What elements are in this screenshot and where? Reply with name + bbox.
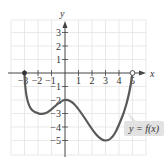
y-tick-label: 2 — [56, 41, 61, 52]
x-tick-label: −2 — [32, 75, 43, 86]
y-tick-label: 3 — [56, 27, 61, 38]
open-endpoint — [130, 71, 135, 76]
y-tick-label: −4 — [50, 122, 61, 133]
y-tick-labels: 3 2 1 −1 −2 −3 −4 −5 — [50, 27, 61, 146]
y-axis-arrow-icon — [63, 21, 68, 28]
x-tick-label: 4 — [117, 75, 122, 86]
axes — [8, 25, 142, 157]
x-axis-arrow-icon — [139, 71, 146, 76]
x-tick-label: 2 — [90, 75, 95, 86]
x-tick-label: −3 — [18, 75, 29, 86]
x-tick-label: 3 — [103, 75, 108, 86]
y-tick-label: −5 — [50, 135, 61, 146]
x-tick-label: 1 — [76, 75, 81, 86]
function-label: y = f(x) — [128, 123, 160, 135]
y-tick-label: −1 — [50, 81, 61, 92]
x-tick-labels: −3 −2 −1 1 2 3 4 5 — [18, 75, 135, 86]
function-graph: x y −3 −2 −1 1 2 3 4 5 3 2 1 −1 −2 −3 −4… — [0, 0, 168, 162]
closed-endpoint — [22, 71, 27, 76]
y-axis-label: y — [59, 8, 65, 19]
x-axis-label: x — [149, 68, 155, 79]
y-tick-label: 1 — [56, 54, 61, 65]
